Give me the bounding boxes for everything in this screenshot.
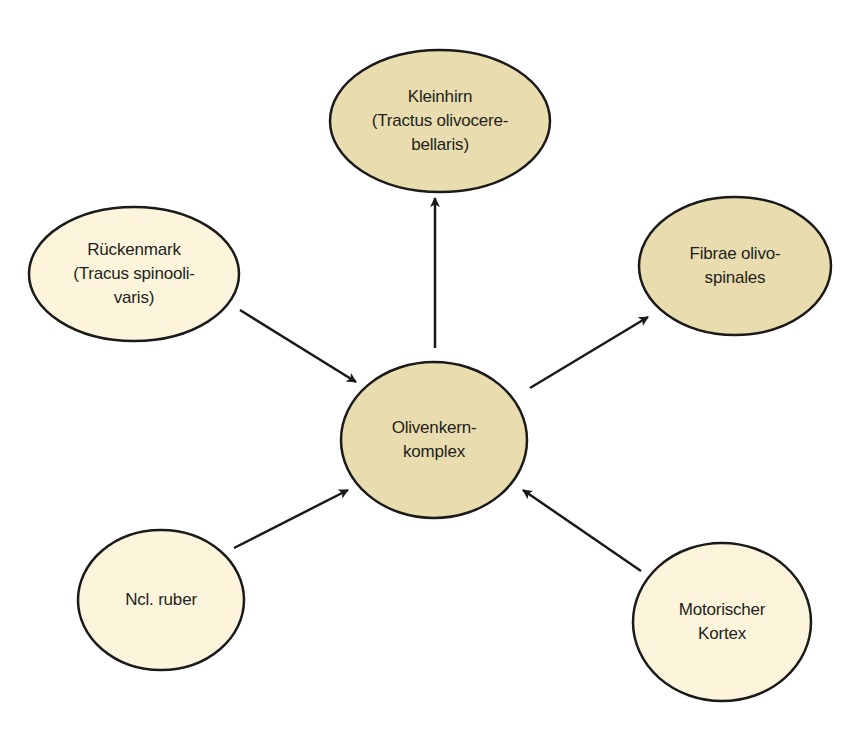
node-label-center: Olivenkern- komplex — [392, 416, 477, 464]
node-label-ncl-ruber: Ncl. ruber — [125, 588, 197, 612]
arrow-rueckenmark-to-center — [240, 310, 356, 382]
arrow-motorischer-kortex-to-center — [523, 490, 641, 571]
arrow-ncl-ruber-to-center — [234, 490, 348, 548]
node-label-rueckenmark: Rückenmark (Tracus spinooli- varis) — [73, 238, 195, 310]
node-label-kleinhirn: Kleinhirn (Tractus olivocere- bellaris) — [372, 85, 508, 157]
node-label-motorischer-kortex: Motorischer Kortex — [679, 598, 766, 646]
arrow-center-to-fibrae — [530, 317, 648, 388]
node-label-fibrae: Fibrae olivo- spinales — [690, 242, 781, 290]
